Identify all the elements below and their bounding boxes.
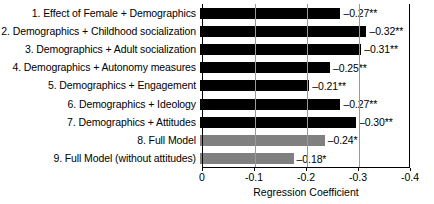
bar-value-label: –0.25** bbox=[330, 63, 367, 74]
chart-row: 8. Full Model–0.24* bbox=[0, 132, 434, 150]
bar-track: –0.30** bbox=[200, 113, 434, 131]
bar-category-label: 7. Demographics + Attitudes bbox=[0, 117, 200, 128]
chart-row: 6. Demographics + Ideology–0.27** bbox=[0, 95, 434, 113]
bar-value-label: –0.32** bbox=[366, 26, 403, 37]
x-axis-title: Regression Coefficient bbox=[202, 186, 410, 198]
chart-row: 1. Effect of Female + Demographics–0.27*… bbox=[0, 4, 434, 22]
chart-row: 7. Demographics + Attitudes–0.30** bbox=[0, 113, 434, 131]
bar-category-label: 8. Full Model bbox=[0, 135, 200, 146]
bar bbox=[200, 44, 361, 55]
bar-track: –0.27** bbox=[200, 4, 434, 22]
bar-track: –0.27** bbox=[200, 95, 434, 113]
bar-value-label: –0.30** bbox=[356, 117, 393, 128]
bar-value-label: –0.24* bbox=[325, 135, 358, 146]
x-tick-label: 0 bbox=[199, 171, 205, 183]
bar-track: –0.32** bbox=[200, 22, 434, 40]
x-axis: 0-0.1-0.2-0.3-0.4 bbox=[202, 168, 410, 184]
x-tick-label: -0.4 bbox=[401, 171, 419, 183]
bar bbox=[200, 80, 309, 91]
bar-track: –0.18* bbox=[200, 150, 434, 168]
regression-coefficient-bar-chart: 1. Effect of Female + Demographics–0.27*… bbox=[0, 0, 434, 204]
bar-category-label: 3. Demographics + Adult socialization bbox=[0, 44, 200, 55]
bar-track: –0.31** bbox=[200, 40, 434, 58]
bar bbox=[200, 117, 356, 128]
bar-category-label: 9. Full Model (without attitudes) bbox=[0, 153, 200, 164]
chart-row: 2. Demographics + Childhood socializatio… bbox=[0, 22, 434, 40]
bar-value-label: –0.18* bbox=[294, 154, 327, 165]
x-tick-label: -0.2 bbox=[297, 171, 315, 183]
bar bbox=[200, 135, 325, 146]
bar-value-label: –0.31** bbox=[361, 44, 398, 55]
x-tick-label: -0.3 bbox=[349, 171, 367, 183]
bar-value-label: –0.27** bbox=[340, 99, 377, 110]
bar-category-label: 1. Effect of Female + Demographics bbox=[0, 8, 200, 19]
chart-row: 9. Full Model (without attitudes)–0.18* bbox=[0, 150, 434, 168]
bar-category-label: 6. Demographics + Ideology bbox=[0, 99, 200, 110]
bar bbox=[200, 8, 340, 19]
chart-row: 3. Demographics + Adult socialization–0.… bbox=[0, 40, 434, 58]
bar-track: –0.24* bbox=[200, 132, 434, 150]
bar bbox=[200, 26, 366, 37]
chart-rows: 1. Effect of Female + Demographics–0.27*… bbox=[0, 4, 434, 168]
bar-track: –0.21** bbox=[200, 77, 434, 95]
bar-category-label: 5. Demographics + Engagement bbox=[0, 80, 200, 91]
chart-row: 5. Demographics + Engagement–0.21** bbox=[0, 77, 434, 95]
bar-category-label: 4. Demographics + Autonomy measures bbox=[0, 62, 200, 73]
bar-value-label: –0.21** bbox=[309, 81, 346, 92]
bar bbox=[200, 62, 330, 73]
bar bbox=[200, 99, 340, 110]
x-tick-label: -0.1 bbox=[245, 171, 263, 183]
bar-category-label: 2. Demographics + Childhood socializatio… bbox=[0, 26, 200, 37]
chart-row: 4. Demographics + Autonomy measures–0.25… bbox=[0, 59, 434, 77]
bar bbox=[200, 153, 294, 164]
bar-track: –0.25** bbox=[200, 59, 434, 77]
bar-value-label: –0.27** bbox=[340, 8, 377, 19]
